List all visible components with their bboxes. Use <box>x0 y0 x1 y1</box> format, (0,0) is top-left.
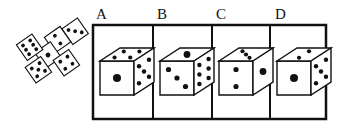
option-label-d: D <box>275 6 286 22</box>
cube-option-a <box>100 48 154 95</box>
pip <box>290 74 298 82</box>
pip <box>206 76 210 80</box>
cube-option-c <box>219 48 273 95</box>
pip <box>147 58 151 62</box>
pip <box>197 63 201 67</box>
option-label-a: A <box>96 6 107 22</box>
option-cubes <box>100 48 331 95</box>
pip <box>183 84 188 89</box>
pip <box>112 55 116 59</box>
pip <box>206 57 210 61</box>
pip <box>137 64 141 68</box>
pip <box>233 84 238 89</box>
pip <box>233 67 238 72</box>
pip <box>128 55 132 59</box>
pip <box>314 81 318 85</box>
pip <box>206 66 210 70</box>
puzzle-figure: A B C D <box>0 0 346 129</box>
option-label-c: C <box>216 6 226 22</box>
pip <box>319 69 323 73</box>
cube-front-face <box>219 61 253 95</box>
pip <box>324 75 328 79</box>
pip <box>314 64 318 68</box>
pip <box>147 75 151 79</box>
cube-option-b <box>160 48 214 95</box>
cube-net <box>16 18 88 83</box>
pip <box>122 49 126 53</box>
pip <box>137 49 141 53</box>
pip <box>197 82 201 86</box>
pip <box>260 68 267 75</box>
pip <box>307 49 311 53</box>
pip <box>184 51 191 58</box>
pip <box>297 56 301 60</box>
pip <box>240 49 244 53</box>
pip <box>197 72 201 76</box>
pip <box>166 67 171 72</box>
pip <box>142 69 146 73</box>
pip <box>174 75 179 80</box>
cube-option-d <box>277 48 331 95</box>
pip <box>137 81 141 85</box>
pip <box>244 52 248 56</box>
pip <box>324 58 328 62</box>
pip <box>247 56 251 60</box>
option-label-b: B <box>157 6 167 22</box>
pip <box>113 74 121 82</box>
